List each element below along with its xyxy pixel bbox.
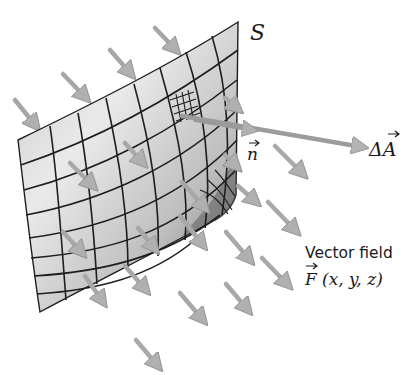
normal-label: n <box>247 144 258 164</box>
delta-a-label: ΔA <box>368 138 396 160</box>
surface-label: S <box>250 20 265 45</box>
vector-field-formula: F (x, y, z) <box>304 263 383 289</box>
area-vector-label: ΔA <box>368 131 399 160</box>
flux-diagram: S ΔA n Vector field F (x, y, z) <box>0 0 409 375</box>
vector-field-caption: Vector field <box>305 244 393 262</box>
vector-field-args: (x, y, z) <box>322 269 383 289</box>
vector-field-symbol: F <box>304 269 318 289</box>
normal-label-group: n <box>247 140 259 164</box>
vector-arrow-accent-icon <box>388 131 399 137</box>
